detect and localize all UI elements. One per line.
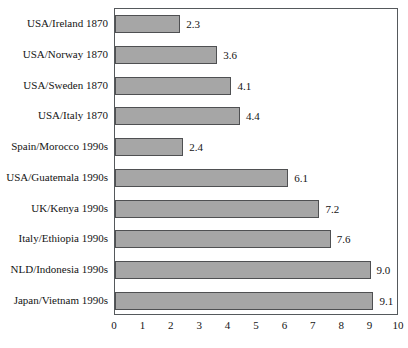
bar-value-label: 4.1 <box>237 77 251 95</box>
bar-row: 2.3 <box>115 15 399 33</box>
x-tick-label: 2 <box>168 318 174 332</box>
bar-row: 9.0 <box>115 261 399 279</box>
category-axis-labels: USA/Ireland 1870USA/Norway 1870USA/Swede… <box>0 8 114 315</box>
bar <box>115 77 231 95</box>
bar-value-label: 2.3 <box>186 15 200 33</box>
bar-chart: USA/Ireland 1870USA/Norway 1870USA/Swede… <box>0 0 408 348</box>
bar <box>115 200 319 218</box>
bar <box>115 107 240 125</box>
bar <box>115 138 183 156</box>
category-label: Italy/Ethiopia 1990s <box>18 229 108 247</box>
bar-row: 3.6 <box>115 46 399 64</box>
bar-row: 6.1 <box>115 169 399 187</box>
category-label: UK/Kenya 1990s <box>31 199 108 217</box>
plot-frame: 2.33.64.14.42.46.17.27.69.09.1 <box>114 8 398 315</box>
x-tick-label: 10 <box>393 318 404 332</box>
bar-value-label: 7.6 <box>337 230 351 248</box>
x-tick-label: 9 <box>367 318 373 332</box>
bar <box>115 292 373 310</box>
bar-row: 2.4 <box>115 138 399 156</box>
category-label: USA/Guatemala 1990s <box>6 168 108 186</box>
bar <box>115 261 371 279</box>
category-label: Spain/Morocco 1990s <box>11 137 108 155</box>
bar-value-label: 6.1 <box>294 169 308 187</box>
bar <box>115 169 288 187</box>
bar-value-label: 7.2 <box>325 200 339 218</box>
bar <box>115 230 331 248</box>
x-tick-label: 6 <box>282 318 288 332</box>
bar <box>115 46 217 64</box>
bar-value-label: 3.6 <box>223 46 237 64</box>
bar-value-label: 9.1 <box>379 292 393 310</box>
x-tick-label: 1 <box>140 318 146 332</box>
category-label: USA/Norway 1870 <box>23 45 108 63</box>
bar-value-label: 9.0 <box>377 261 391 279</box>
bar-row: 9.1 <box>115 292 399 310</box>
bar-value-label: 2.4 <box>189 138 203 156</box>
bar-row: 4.4 <box>115 107 399 125</box>
category-label: NLD/Indonesia 1990s <box>11 260 108 278</box>
plot-area: 2.33.64.14.42.46.17.27.69.09.1 <box>115 9 397 314</box>
bar-row: 7.2 <box>115 200 399 218</box>
bar <box>115 15 180 33</box>
category-label: USA/Italy 1870 <box>38 106 108 124</box>
bar-row: 4.1 <box>115 77 399 95</box>
x-tick-label: 3 <box>196 318 202 332</box>
bar-value-label: 4.4 <box>246 107 260 125</box>
category-label: Japan/Vietnam 1990s <box>14 291 108 309</box>
bar-row: 7.6 <box>115 230 399 248</box>
category-label: USA/Ireland 1870 <box>27 14 108 32</box>
x-tick-label: 5 <box>253 318 259 332</box>
x-tick-label: 0 <box>111 318 117 332</box>
x-tick-label: 8 <box>338 318 344 332</box>
x-tick-label: 7 <box>310 318 316 332</box>
category-label: USA/Sweden 1870 <box>23 76 108 94</box>
x-axis-tick-labels: 012345678910 <box>114 316 398 338</box>
x-tick-label: 4 <box>225 318 231 332</box>
